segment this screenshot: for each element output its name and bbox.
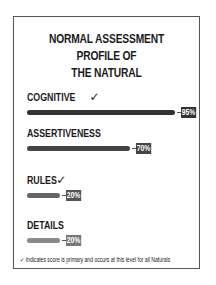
value-label: 20% bbox=[66, 235, 81, 246]
check-icon: ✓ bbox=[90, 90, 100, 104]
legend-footnote: ✓ Indicates score is primary and occurs … bbox=[20, 256, 170, 264]
metric-label: DETAILS bbox=[27, 219, 64, 231]
title-line-1: NORMAL ASSESSMENT PROFILE OF bbox=[31, 31, 183, 65]
chart-title: NORMAL ASSESSMENT PROFILE OF THE NATURAL bbox=[31, 31, 183, 82]
check-icon: ✓ bbox=[20, 256, 24, 263]
bar-assertiveness bbox=[27, 146, 130, 151]
value-label: 95% bbox=[181, 107, 196, 118]
metric-label: RULES bbox=[27, 174, 57, 186]
check-icon: ✓ bbox=[56, 173, 66, 187]
profile-card: NORMAL ASSESSMENT PROFILE OF THE NATURAL… bbox=[13, 16, 200, 269]
value-label: 70% bbox=[136, 143, 151, 154]
metric-assertiveness: ASSERTIVENESS 70% bbox=[27, 123, 119, 154]
metric-label: ASSERTIVENESS bbox=[27, 127, 101, 139]
bar-row: 95% bbox=[27, 108, 100, 118]
bar-row: 20% bbox=[27, 236, 73, 246]
metric-details: DETAILS 20% bbox=[27, 215, 73, 246]
bar-cognitive bbox=[27, 110, 175, 115]
bar-row: 70% bbox=[27, 144, 119, 154]
metric-label: COGNITIVE bbox=[27, 91, 75, 103]
metric-rules: RULES✓ 20% bbox=[27, 170, 66, 201]
value-label: 20% bbox=[66, 190, 81, 201]
title-line-2: THE NATURAL bbox=[31, 65, 183, 82]
bar-details bbox=[27, 238, 60, 243]
footnote-text: Indicates score is primary and occurs at… bbox=[26, 256, 171, 263]
bar-row: 20% bbox=[27, 191, 66, 201]
bar-rules bbox=[27, 193, 60, 198]
metric-cognitive: COGNITIVE✓ 95% bbox=[27, 87, 100, 118]
